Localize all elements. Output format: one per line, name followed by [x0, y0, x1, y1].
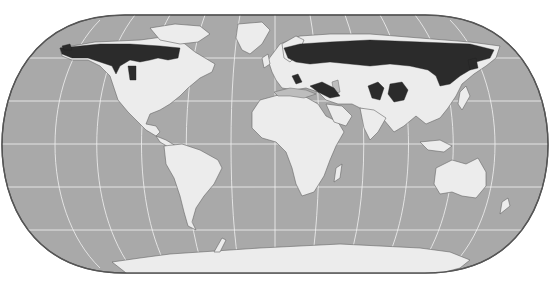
highlight-kamchatka [468, 58, 478, 70]
world-map [0, 0, 550, 287]
